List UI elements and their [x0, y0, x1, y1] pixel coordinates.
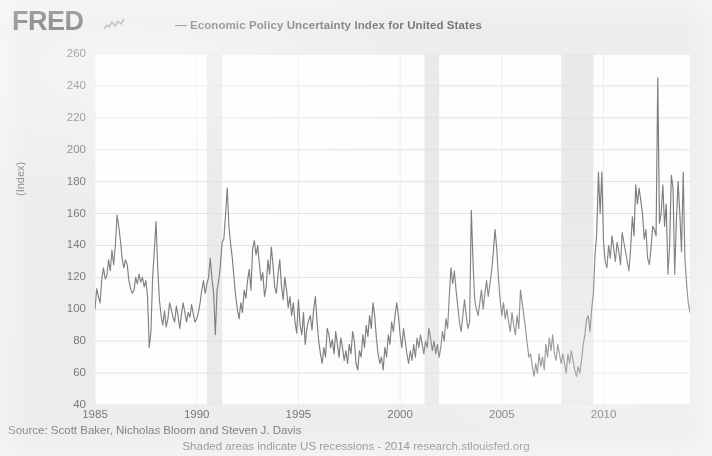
x-axis-tick-label: 2000 [370, 408, 430, 420]
y-axis-tick-label: 240 [40, 79, 86, 91]
y-axis-tick-label: 220 [40, 111, 86, 123]
y-axis-tick-label: 160 [40, 207, 86, 219]
y-axis-tick-label: 60 [40, 366, 86, 378]
y-axis-tick-label: 180 [40, 175, 86, 187]
fred-chart-figure: FRED — Economic Policy Uncertainty Index… [0, 0, 712, 456]
x-axis-tick-label: 1995 [268, 408, 328, 420]
y-axis-tick-label: 80 [40, 334, 86, 346]
gridlines [95, 54, 690, 405]
plot-svg [95, 54, 690, 405]
plot-area [95, 54, 690, 405]
chart-legend: — Economic Policy Uncertainty Index for … [175, 19, 482, 31]
y-axis-title: (Index) [14, 162, 26, 196]
fred-logo: FRED [12, 8, 84, 35]
recession-band [561, 54, 593, 405]
series-line [95, 78, 690, 376]
chart-header: FRED — Economic Policy Uncertainty Index… [0, 0, 712, 46]
y-axis-tick-label: 200 [40, 143, 86, 155]
y-axis-tick-label: 260 [40, 47, 86, 59]
y-axis-tick-label: 120 [40, 270, 86, 282]
x-axis-tick-label: 1985 [65, 408, 125, 420]
recession-footnote: Shaded areas indicate US recessions - 20… [0, 440, 712, 452]
x-axis-tick-label: 2005 [472, 408, 532, 420]
series-lines [95, 78, 690, 376]
legend-series-label: — Economic Policy Uncertainty Index for … [175, 19, 482, 31]
x-axis-tick-label: 1990 [167, 408, 227, 420]
recession-band [425, 54, 440, 405]
y-axis-tick-label: 140 [40, 238, 86, 250]
squiggle-line-icon [103, 18, 125, 32]
y-axis-tick-label: 100 [40, 302, 86, 314]
recession-band [207, 54, 222, 405]
x-axis-tick-label: 2010 [574, 408, 634, 420]
source-note: Source: Scott Baker, Nicholas Bloom and … [8, 424, 301, 436]
